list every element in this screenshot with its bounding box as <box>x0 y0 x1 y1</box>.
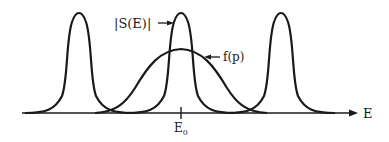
s-of-e-label: |S(E)| <box>114 16 151 31</box>
axis-e-label: E <box>363 106 373 121</box>
axis-arrowhead-icon <box>349 110 358 117</box>
e0-main: E <box>174 121 183 135</box>
diagram-canvas: |S(E)| f(p) E0 E <box>0 0 389 142</box>
f-p-label: f(p) <box>223 50 245 64</box>
e0-subscript: 0 <box>183 128 188 137</box>
e0-label: E0 <box>174 121 188 137</box>
